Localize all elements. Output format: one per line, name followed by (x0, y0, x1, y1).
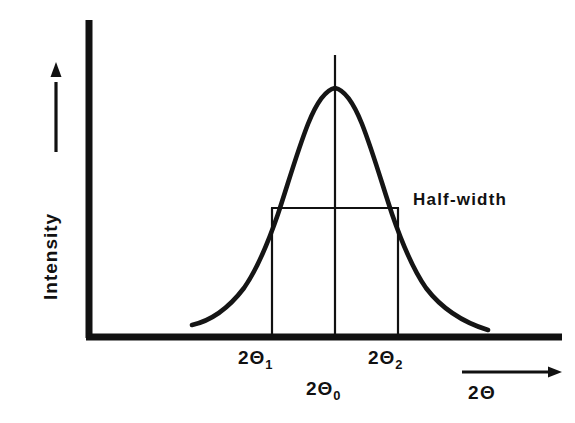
tick-label-two-theta-2: 2Θ2 (368, 347, 403, 372)
y-axis-title: Intensity (40, 180, 70, 300)
tick-label-two-theta-2-base: 2Θ (368, 347, 395, 368)
half-width-label: Half-width (413, 190, 507, 210)
tick-label-two-theta-1-base: 2Θ (238, 347, 265, 368)
tick-label-two-theta-1: 2Θ1 (238, 347, 273, 372)
tick-label-two-theta-0: 2Θ0 (306, 378, 341, 403)
plot-canvas (0, 0, 575, 423)
y-axis-arrow-icon (51, 62, 62, 152)
x-axis-title: 2Θ (468, 382, 496, 404)
tick-label-two-theta-2-subscript: 2 (395, 357, 402, 372)
tick-label-two-theta-0-base: 2Θ (306, 378, 333, 399)
tick-label-two-theta-0-subscript: 0 (333, 388, 340, 403)
tick-label-two-theta-1-subscript: 1 (265, 357, 272, 372)
x-axis-arrow-icon (462, 367, 562, 378)
diffraction-peak-figure: Intensity 2Θ Half-width 2Θ1 2Θ2 2Θ0 (0, 0, 575, 423)
